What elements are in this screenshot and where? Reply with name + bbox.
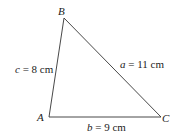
side-value-c: = 8 cm xyxy=(20,63,54,75)
side-value-a: = 11 cm xyxy=(126,58,165,70)
vertex-label-a: A xyxy=(36,111,44,123)
side-label-b: b = 9 cm xyxy=(87,121,126,133)
side-label-a: a = 11 cm xyxy=(120,58,164,70)
triangle-diagram: B A C c = 8 cm a = 11 cm b = 9 cm xyxy=(0,0,180,140)
vertex-label-c: C xyxy=(162,112,170,124)
side-value-b: = 9 cm xyxy=(93,121,127,133)
side-label-c: c = 8 cm xyxy=(15,63,54,75)
vertex-label-b: B xyxy=(58,5,65,17)
